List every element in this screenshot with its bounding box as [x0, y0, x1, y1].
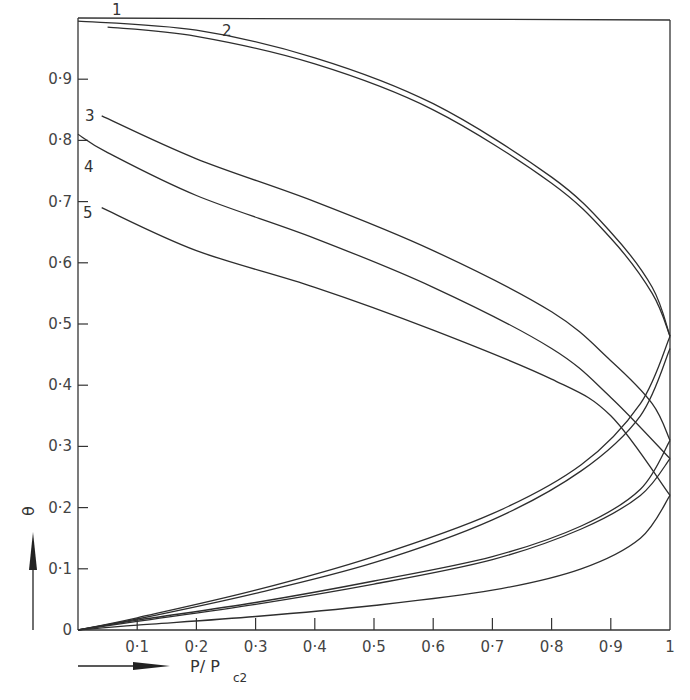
- y-arrow-head-icon: [29, 532, 37, 570]
- y-tick-label: 0·9: [48, 70, 72, 88]
- top-border: [78, 18, 670, 20]
- x-tick-label: 0·3: [244, 638, 268, 656]
- y-tick-label: 0·6: [48, 254, 72, 272]
- chart: 00·10·20·30·40·50·60·70·80·9 0·10·20·30·…: [0, 0, 690, 700]
- y-tick-label: 0·8: [48, 131, 72, 149]
- curve-2-lower-branch: [78, 336, 670, 630]
- y-tick-label: 0·7: [48, 193, 72, 211]
- x-tick-label: 0·8: [540, 638, 564, 656]
- curve-3-upper-branch: [102, 116, 670, 440]
- y-tick-label: 0·5: [48, 315, 72, 333]
- x-tick-label: 0·6: [421, 638, 445, 656]
- x-axis-ticks: 0·10·20·30·40·50·60·70·80·91: [125, 618, 675, 656]
- curve-label-3: 3: [85, 107, 95, 125]
- curve-label-4: 4: [84, 158, 94, 176]
- x-axis-title-sub: c2: [233, 671, 247, 685]
- curve-3-lower-branch: [78, 440, 670, 630]
- plot-frame: [78, 18, 670, 630]
- y-tick-label: 0·1: [48, 560, 72, 578]
- y-axis-ticks: 00·10·20·30·40·50·60·70·80·9: [48, 70, 88, 639]
- x-tick-label: 0·1: [125, 638, 149, 656]
- curve-label-5: 5: [83, 204, 93, 222]
- x-arrow-head-icon: [133, 662, 170, 670]
- x-tick-label: 0·2: [184, 638, 208, 656]
- curve-4-upper-branch: [78, 134, 670, 458]
- y-tick-label: 0·3: [48, 437, 72, 455]
- x-axis-title-main: P/ P: [190, 657, 220, 676]
- x-tick-label: 0·7: [480, 638, 504, 656]
- curve-4-lower-branch: [78, 459, 670, 630]
- y-tick-label: 0·2: [48, 499, 72, 517]
- curves: [78, 21, 670, 630]
- theta-symbol: θ: [19, 506, 38, 516]
- y-tick-label: 0·4: [48, 376, 72, 394]
- x-tick-label: 1: [665, 638, 675, 656]
- x-tick-label: 0·5: [362, 638, 386, 656]
- x-tick-label: 0·4: [303, 638, 327, 656]
- x-axis-title: P/ P c2: [78, 657, 247, 685]
- y-axis-title: θ: [19, 506, 38, 630]
- curve-1-upper-branch: [108, 27, 670, 336]
- curve-label-2: 2: [222, 22, 232, 40]
- y-tick-label: 0: [62, 621, 72, 639]
- curve-5-upper-branch: [102, 208, 670, 496]
- x-tick-label: 0·9: [599, 638, 623, 656]
- curve-label-1: 1: [112, 1, 122, 19]
- curve-1-lower-branch: [78, 349, 670, 631]
- curve-2-upper-branch: [78, 21, 670, 336]
